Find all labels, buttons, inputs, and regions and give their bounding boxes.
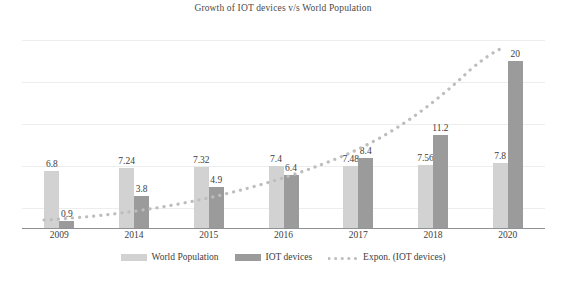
- bar-value-label: 6.4: [285, 163, 297, 173]
- bar-world-population[interactable]: 7.24: [119, 168, 134, 229]
- plot-area: 6.8 0.9 7.24 3.8: [22, 40, 545, 228]
- x-tick-2015: 2015: [171, 230, 246, 240]
- x-tick-2014: 2014: [97, 230, 172, 240]
- legend-item-iot-devices[interactable]: IOT devices: [235, 252, 313, 262]
- bar-pair: 7.32 4.9: [194, 167, 224, 228]
- chart-legend: World Population IOT devices Expon. (IOT…: [0, 252, 566, 262]
- bar-value-label: 7.8: [494, 151, 506, 161]
- bar-world-population[interactable]: 7.56: [418, 165, 433, 228]
- bar-pair: 7.48 8.4: [343, 158, 373, 228]
- bar-pair: 7.24 3.8: [119, 168, 149, 229]
- bar-group-2020: 7.8 20: [470, 40, 545, 228]
- bar-group-2016: 7.4 6.4: [246, 40, 321, 228]
- x-tick-2020: 2020: [470, 230, 545, 240]
- bar-value-label: 7.56: [417, 153, 434, 163]
- x-tick-2018: 2018: [396, 230, 471, 240]
- x-tick-2017: 2017: [321, 230, 396, 240]
- bar-group-2018: 7.56 11.2: [396, 40, 471, 228]
- x-tick-2009: 2009: [22, 230, 97, 240]
- bar-value-label: 8.4: [360, 146, 372, 156]
- bar-value-label: 20: [510, 50, 520, 60]
- bar-iot-devices[interactable]: 11.2: [433, 135, 448, 229]
- x-axis-labels: 2009 2014 2015 2016 2017 2018 2020: [22, 230, 545, 240]
- legend-item-world-population[interactable]: World Population: [121, 252, 219, 262]
- bar-value-label: 3.8: [136, 185, 148, 195]
- x-tick-2016: 2016: [246, 230, 321, 240]
- bar-iot-devices[interactable]: 8.4: [358, 158, 373, 228]
- bar-value-label: 7.48: [342, 154, 359, 164]
- bar-pair: 7.56 11.2: [418, 135, 448, 229]
- bar-world-population[interactable]: 7.8: [493, 163, 508, 228]
- bar-group-2015: 7.32 4.9: [171, 40, 246, 228]
- bar-iot-devices[interactable]: 3.8: [134, 196, 149, 228]
- bar-pair: 7.4 6.4: [269, 166, 299, 228]
- legend-label: Expon. (IOT devices): [363, 252, 445, 262]
- bar-value-label: 7.32: [193, 155, 210, 165]
- bar-groups: 6.8 0.9 7.24 3.8: [22, 40, 545, 228]
- legend-item-exponential-trendline[interactable]: Expon. (IOT devices): [328, 252, 445, 262]
- bar-iot-devices[interactable]: 6.4: [284, 175, 299, 228]
- bar-group-2014: 7.24 3.8: [97, 40, 172, 228]
- bar-value-label: 7.4: [270, 155, 282, 165]
- bar-group-2009: 6.8 0.9: [22, 40, 97, 228]
- bar-world-population[interactable]: 7.4: [269, 166, 284, 228]
- legend-swatch-icon: [235, 254, 261, 261]
- chart-container: Growth of IOT devices v/s World Populati…: [0, 0, 566, 281]
- bar-pair: 6.8 0.9: [44, 171, 74, 228]
- bar-pair: 7.8 20: [493, 61, 523, 228]
- bar-world-population[interactable]: 6.8: [44, 171, 59, 228]
- legend-label: World Population: [152, 252, 219, 262]
- bar-value-label: 6.8: [46, 160, 58, 170]
- bar-value-label: 7.24: [118, 156, 135, 166]
- bar-world-population[interactable]: 7.32: [194, 167, 209, 228]
- bar-value-label: 11.2: [432, 123, 448, 133]
- legend-dotted-line-icon: [328, 254, 358, 261]
- bar-value-label: 4.9: [210, 176, 222, 186]
- bar-iot-devices[interactable]: 4.9: [209, 187, 224, 228]
- x-axis-line: [22, 228, 545, 229]
- legend-swatch-icon: [121, 254, 147, 261]
- bar-group-2017: 7.48 8.4: [321, 40, 396, 228]
- bar-world-population[interactable]: 7.48: [343, 166, 358, 229]
- chart-title: Growth of IOT devices v/s World Populati…: [0, 3, 566, 13]
- bar-iot-devices[interactable]: 20: [508, 61, 523, 228]
- bar-value-label: 0.9: [61, 209, 73, 219]
- legend-label: IOT devices: [266, 252, 313, 262]
